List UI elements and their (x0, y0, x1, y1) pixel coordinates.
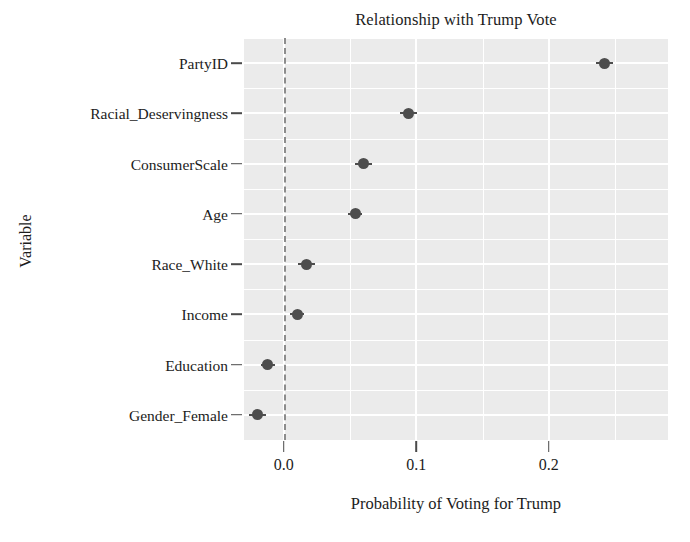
chart-title: Relationship with Trump Vote (244, 10, 668, 30)
y-tick-label: Race_White (151, 257, 228, 272)
gridline-horizontal-major (244, 112, 668, 114)
x-tick-mark (283, 441, 285, 452)
gridline-horizontal-major (244, 414, 668, 416)
y-tick-label: Age (202, 206, 228, 221)
y-axis: PartyIDRacial_DeservingnessConsumerScale… (0, 38, 244, 440)
error-bar (290, 313, 304, 315)
y-tick-mark (231, 163, 242, 165)
gridline-horizontal-major (244, 213, 668, 215)
data-point (599, 58, 610, 69)
x-axis-title: Probability of Voting for Trump (244, 494, 668, 514)
gridline-horizontal-minor (244, 189, 668, 190)
zero-reference-line (284, 38, 286, 440)
y-tick-label: ConsumerScale (131, 156, 228, 171)
y-tick-mark (231, 364, 242, 366)
gridline-horizontal-major (244, 364, 668, 366)
plot-panel (244, 38, 668, 440)
error-bar (298, 263, 315, 265)
y-tick-label: Racial_Deservingness (90, 106, 228, 121)
y-tick-label: Gender_Female (129, 407, 228, 422)
y-tick-mark (231, 414, 242, 416)
y-tick-mark (231, 113, 242, 115)
data-point (262, 359, 273, 370)
gridline-horizontal-minor (244, 390, 668, 391)
error-bar (249, 414, 266, 416)
x-tick-mark (548, 441, 550, 452)
y-tick-label: Income (182, 307, 228, 322)
data-point (350, 208, 361, 219)
data-point (292, 309, 303, 320)
x-axis: 0.00.10.2 (244, 440, 668, 488)
error-bar (355, 163, 372, 165)
y-tick-label: PartyID (179, 56, 228, 71)
error-bar (400, 112, 417, 114)
data-point (252, 409, 263, 420)
chart-figure: Relationship with Trump Vote Variable Pa… (0, 0, 690, 542)
x-tick-label: 0.1 (406, 456, 426, 474)
gridline-horizontal-minor (244, 239, 668, 240)
y-tick-mark (231, 62, 242, 64)
y-tick-mark (231, 314, 242, 316)
gridline-horizontal-minor (244, 38, 668, 39)
gridline-horizontal-minor (244, 289, 668, 290)
x-tick-label: 0.0 (274, 456, 294, 474)
data-point (301, 259, 312, 270)
error-bar (348, 213, 362, 215)
x-tick-mark (415, 441, 417, 452)
gridline-horizontal-minor (244, 88, 668, 89)
error-bar (261, 364, 275, 366)
data-point (358, 158, 369, 169)
gridline-horizontal-major (244, 313, 668, 315)
gridline-horizontal-major (244, 163, 668, 165)
y-tick-mark (231, 213, 242, 215)
y-tick-label: Education (165, 357, 228, 372)
data-point (403, 108, 414, 119)
x-tick-label: 0.2 (539, 456, 559, 474)
y-tick-mark (231, 263, 242, 265)
gridline-horizontal-minor (244, 340, 668, 341)
gridline-horizontal-minor (244, 139, 668, 140)
error-bar (596, 62, 613, 64)
